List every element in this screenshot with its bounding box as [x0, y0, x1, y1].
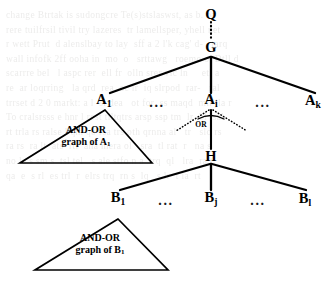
node-label-h: H — [205, 149, 216, 164]
edge-h-to-bl — [212, 164, 306, 190]
node-subscript-b1: 1 — [120, 196, 125, 207]
triangle-caption-b1-line1: AND-OR — [75, 232, 124, 244]
triangle-caption-b1-line2: graph of B1 — [75, 243, 124, 258]
node-label-ai: Ai — [204, 92, 217, 108]
edge-h-to-b1 — [120, 164, 210, 190]
ellipsis-a-right: ... — [255, 96, 270, 110]
node-subscript-a1: 1 — [107, 98, 112, 109]
node-label-g: G — [205, 40, 216, 55]
node-label-ak: Ak — [305, 93, 321, 109]
edge-g-to-a1 — [110, 57, 210, 93]
or-connector-label: OR — [195, 121, 207, 129]
triangle-caption-a1-line2: graph of A1 — [61, 135, 110, 150]
figure-canvas: change Btrtak is sudongcre Te(s)stslasws… — [0, 0, 335, 289]
node-label-bl: Bl — [299, 191, 311, 207]
node-label-a1: A1 — [96, 92, 111, 108]
node-label-bj: Bj — [205, 190, 218, 206]
triangle-caption-a1: AND-OR graph of A1 — [61, 124, 110, 151]
ellipsis-b-left: ... — [158, 194, 173, 208]
edge-ai-or-right-dotted — [213, 110, 247, 131]
node-subscript-ai: i — [215, 98, 218, 109]
triangle-caption-a1-line1: AND-OR — [61, 124, 110, 136]
node-subscript-bj: j — [214, 196, 217, 207]
node-subscript-bl: l — [309, 197, 312, 208]
ellipsis-a-left: ... — [149, 96, 164, 110]
node-subscript-ak: k — [316, 99, 321, 110]
and-or-graph-drawing — [0, 0, 335, 289]
edge-g-to-ak — [212, 57, 315, 93]
ellipsis-b-right: ... — [250, 194, 265, 208]
triangle-caption-b1: AND-OR graph of B1 — [75, 232, 124, 259]
node-label-q: Q — [205, 7, 216, 22]
node-label-b1: B1 — [111, 190, 125, 206]
